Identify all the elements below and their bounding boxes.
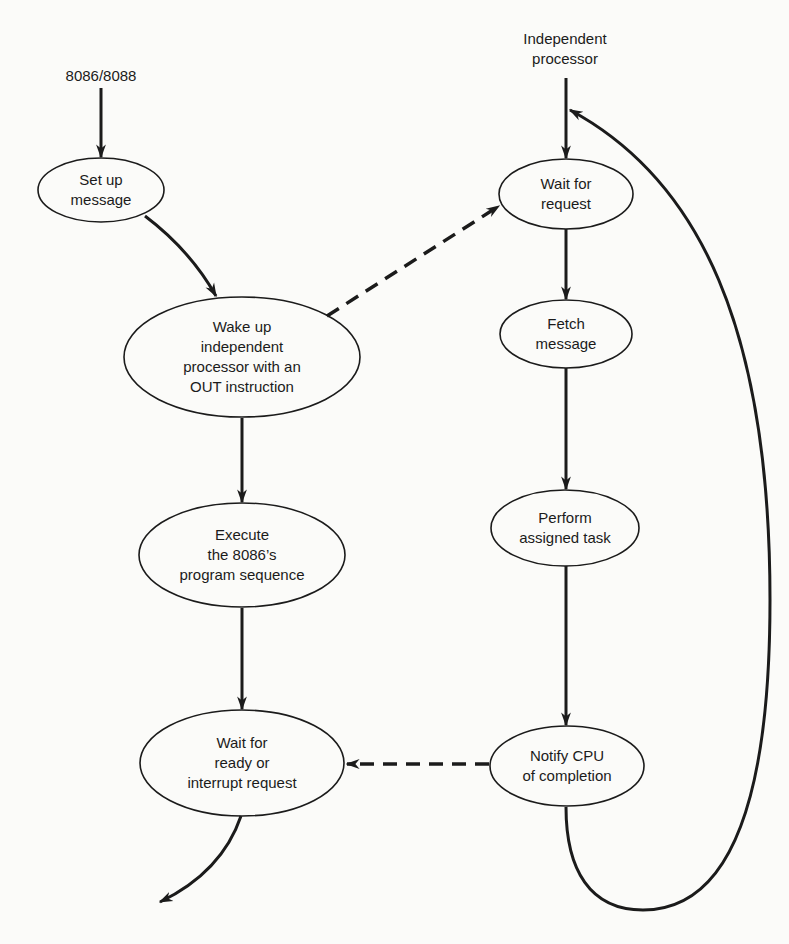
start-label-independent-processor: Independent processor xyxy=(523,29,606,69)
node-waitready-label: Wait for ready or interrupt request xyxy=(187,733,296,793)
node-setup-label: Set up message xyxy=(71,170,132,210)
node-waitreq-label: Wait for request xyxy=(540,174,591,214)
node-execute-label: Execute the 8086’s program sequence xyxy=(179,525,304,585)
arrow-setup-to-wake xyxy=(145,216,216,296)
dashed-arrow-wake-to-waitreq xyxy=(327,206,499,316)
start-label-8086: 8086/8088 xyxy=(66,66,137,86)
node-fetch-label: Fetch message xyxy=(536,314,597,354)
node-notify-label: Notify CPU of completion xyxy=(522,746,611,786)
node-wake-label: Wake up independent processor with an OU… xyxy=(183,317,301,397)
flowchart-canvas: 8086/8088 Independent processor Set up m… xyxy=(0,0,789,944)
node-perform-label: Perform assigned task xyxy=(519,508,611,548)
flowchart-graphics xyxy=(0,0,789,944)
arrow-waitready-exit xyxy=(160,816,241,902)
